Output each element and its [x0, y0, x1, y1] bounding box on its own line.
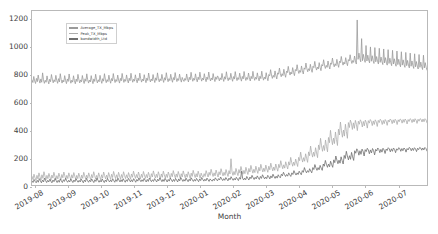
x-tick-label: 2019-10	[80, 189, 111, 212]
y-tick-label: 800	[14, 72, 28, 80]
y-tick-label: 0	[23, 183, 28, 191]
y-tick-mark	[30, 187, 33, 188]
legend-swatch-peak-tx	[69, 33, 78, 34]
y-tick-label: 1000	[9, 44, 28, 52]
x-tick-mark	[233, 185, 234, 188]
x-tick-mark	[332, 185, 333, 188]
x-tick-mark	[299, 185, 300, 188]
legend-label-average-tx: Average_TX_Mbps	[81, 26, 114, 30]
x-tick-label: 2020-06	[344, 189, 375, 212]
x-tick-mark	[266, 185, 267, 188]
y-tick-label: 200	[14, 155, 28, 163]
x-tick-mark	[101, 185, 102, 188]
x-tick-label: 2020-03	[245, 189, 276, 212]
chart-figure: 020040060080010001200 2019-082019-092019…	[0, 0, 438, 234]
y-tick-label: 400	[14, 127, 28, 135]
y-tick-label: 1200	[9, 16, 28, 24]
legend-item: Peak_TX_Mbps	[69, 31, 113, 36]
x-tick-mark	[399, 185, 400, 188]
legend-item: bandwidth_Ltd	[69, 37, 113, 42]
x-tick-mark	[35, 185, 36, 188]
x-tick-label: 2019-09	[47, 189, 78, 212]
x-tick-mark	[68, 185, 69, 188]
x-tick-label: 2019-12	[146, 189, 177, 212]
x-tick-label: 2019-08	[13, 189, 44, 212]
legend-label-peak-tx: Peak_TX_Mbps	[81, 32, 107, 36]
x-tick-label: 2020-02	[212, 189, 243, 212]
x-tick-label: 2019-11	[113, 189, 144, 212]
legend: Average_TX_Mbps Peak_TX_Mbps bandwidth_L…	[66, 23, 117, 44]
x-tick-mark	[200, 185, 201, 188]
x-tick-label: 2020-04	[278, 189, 309, 212]
x-tick-mark	[167, 185, 168, 188]
legend-item: Average_TX_Mbps	[69, 26, 113, 31]
x-axis-label: Month	[31, 212, 428, 221]
x-tick-label: 2020-05	[311, 189, 342, 212]
legend-swatch-average-tx	[69, 27, 78, 28]
x-tick-mark	[134, 185, 135, 188]
y-tick-label: 600	[14, 99, 28, 107]
x-tick-label: 2020-07	[377, 189, 408, 212]
legend-label-bandwidth: bandwidth_Ltd	[81, 37, 107, 41]
plot-area: 020040060080010001200 2019-082019-092019…	[31, 10, 428, 186]
x-tick-mark	[365, 185, 366, 188]
x-tick-label: 2020-01	[179, 189, 210, 212]
legend-swatch-bandwidth	[69, 38, 78, 39]
